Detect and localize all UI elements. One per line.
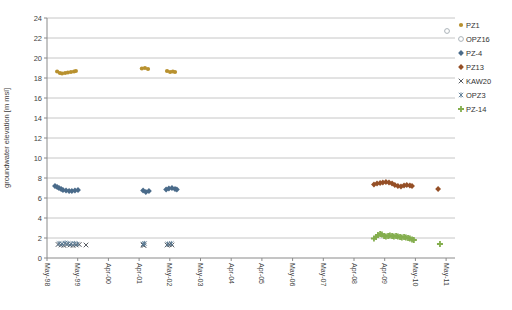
x-tick-labels: May-98May-99Apr-00Apr-01May-02May-03Apr-… bbox=[43, 263, 450, 286]
y-tick-label: 18 bbox=[34, 74, 42, 83]
series-PZ-4 bbox=[52, 183, 180, 195]
diamond-icon bbox=[458, 64, 464, 70]
x-icon bbox=[459, 79, 464, 84]
y-tick-label: 12 bbox=[34, 134, 42, 143]
x-tick-label: May-99 bbox=[73, 263, 81, 286]
x-tick-label: May-10 bbox=[411, 263, 419, 286]
x-tick-label: May-98 bbox=[43, 263, 51, 286]
series-PZ13 bbox=[371, 179, 441, 192]
y-tick-label: 24 bbox=[34, 14, 42, 23]
x-tick-label: Apr-00 bbox=[104, 263, 112, 284]
legend-item-PZ-14: PZ-14 bbox=[458, 105, 486, 114]
legend-label: PZ13 bbox=[466, 63, 484, 72]
legend-item-KAW20: KAW20 bbox=[459, 77, 491, 86]
data-point-PZ1 bbox=[74, 69, 78, 73]
data-point-KAW20 bbox=[84, 243, 89, 248]
asterisk-icon bbox=[459, 92, 463, 97]
series-OPZ3 bbox=[57, 240, 174, 246]
y-tick-label: 4 bbox=[38, 214, 42, 223]
x-tick-label: Apr-08 bbox=[350, 263, 358, 284]
legend-item-OPZ16: OPZ16 bbox=[459, 35, 490, 44]
legend-label: PZ1 bbox=[466, 21, 480, 30]
x-tick-label: May-07 bbox=[319, 263, 327, 286]
series-OPZ16 bbox=[445, 29, 450, 34]
y-tick-label: 14 bbox=[34, 114, 42, 123]
y-tick-label: 8 bbox=[38, 174, 42, 183]
y-tick-label: 16 bbox=[34, 94, 42, 103]
y-axis-title: groundwater elevation [m msl] bbox=[2, 88, 11, 188]
circle-icon bbox=[459, 23, 463, 27]
y-tick-label: 6 bbox=[38, 194, 42, 203]
circle-open-icon bbox=[459, 37, 464, 42]
x-tick-label: Apr-01 bbox=[135, 263, 143, 284]
axes bbox=[44, 18, 455, 261]
chart-canvas: 024681012141618202224 May-98May-99Apr-00… bbox=[0, 0, 512, 310]
data-point-PZ-14 bbox=[437, 241, 443, 247]
data-point-PZ1 bbox=[146, 67, 150, 71]
x-tick-label: May-11 bbox=[442, 263, 450, 286]
legend-item-PZ1: PZ1 bbox=[459, 21, 480, 30]
y-tick-label: 20 bbox=[34, 54, 42, 63]
series-PZ1 bbox=[55, 66, 177, 76]
data-point-PZ1 bbox=[173, 70, 177, 74]
data-point-PZ13 bbox=[435, 186, 441, 192]
series-PZ-14 bbox=[371, 231, 443, 247]
x-tick-label: Apr-04 bbox=[227, 263, 235, 284]
legend-label: PZ-4 bbox=[466, 49, 482, 58]
x-tick-label: May-06 bbox=[288, 263, 296, 286]
legend-label: OPZ16 bbox=[466, 35, 490, 44]
legend-label: KAW20 bbox=[466, 77, 491, 86]
legend-item-PZ13: PZ13 bbox=[458, 63, 484, 72]
y-tick-label: 22 bbox=[34, 34, 42, 43]
legend-label: OPZ3 bbox=[466, 91, 486, 100]
legend: PZ1OPZ16PZ-4PZ13KAW20OPZ3PZ-14 bbox=[458, 21, 491, 114]
y-tick-labels: 024681012141618202224 bbox=[34, 14, 42, 263]
gridlines bbox=[47, 18, 455, 238]
x-tick-label: May-03 bbox=[196, 263, 204, 286]
groundwater-elevation-chart: 024681012141618202224 May-98May-99Apr-00… bbox=[0, 0, 512, 310]
diamond-icon bbox=[458, 50, 464, 56]
legend-item-OPZ3: OPZ3 bbox=[459, 91, 486, 100]
x-tick-label: May-02 bbox=[165, 263, 173, 286]
x-tick-label: Apr-09 bbox=[380, 263, 388, 284]
data-point-OPZ16 bbox=[445, 29, 450, 34]
legend-label: PZ-14 bbox=[466, 105, 486, 114]
plus-icon bbox=[458, 106, 464, 112]
y-tick-label: 10 bbox=[34, 154, 42, 163]
x-tick-label: Apr-05 bbox=[257, 263, 265, 284]
y-tick-label: 2 bbox=[38, 234, 42, 243]
legend-item-PZ-4: PZ-4 bbox=[458, 49, 482, 58]
y-tick-label: 0 bbox=[38, 254, 42, 263]
